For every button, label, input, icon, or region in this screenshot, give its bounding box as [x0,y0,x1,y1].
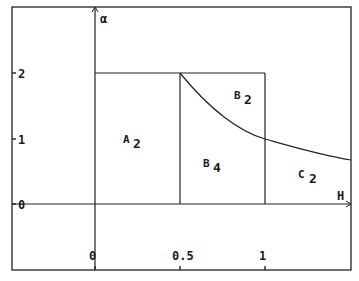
region-label-a2: A 2 [123,133,141,151]
region-diagram: 2 1 0 0 0.5 1 α H A 2 B 4 B 2 C 2 [0,0,359,281]
y-tick-label-0: 0 [18,198,25,212]
region-label-b2: B 2 [234,89,252,107]
x-tick-label-0: 0 [89,249,96,263]
svg-text:2: 2 [244,92,252,107]
svg-text:2: 2 [133,136,141,151]
svg-text:4: 4 [213,160,221,175]
svg-text:B: B [203,157,210,170]
svg-text:A: A [123,133,130,146]
plot-frame [12,7,351,270]
y-tick-label-2: 2 [18,67,25,81]
x-tick-label-0.5: 0.5 [172,249,194,263]
region-label-b4: B 4 [203,157,221,175]
svg-text:C: C [298,168,305,181]
svg-text:2: 2 [309,171,317,186]
y-tick-label-1: 1 [18,133,25,147]
region-label-c2: C 2 [298,168,317,186]
x-tick-label-1: 1 [259,249,266,263]
svg-text:B: B [234,89,241,102]
x-axis-label: H [337,189,344,203]
y-axis-label: α [100,12,107,26]
